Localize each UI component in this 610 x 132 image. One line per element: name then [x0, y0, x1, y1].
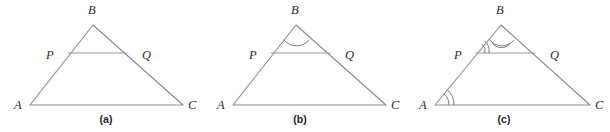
vertex-label-b: B [88, 4, 96, 17]
triangle-abc-outline [233, 25, 386, 105]
vertex-label-b: B [291, 4, 299, 17]
angle-mark-b-arc-1 [284, 40, 309, 46]
vertex-label-a: A [14, 99, 22, 112]
vertex-label-c: C [595, 99, 603, 112]
panel-caption-c: (c) [498, 114, 511, 125]
vertex-label-p: P [46, 49, 54, 62]
vertex-label-a: A [419, 99, 427, 112]
panel-a: A B C P Q (a) [0, 0, 203, 132]
vertex-label-p: P [249, 49, 257, 62]
angle-mark-b-arc-1 [490, 40, 514, 47]
vertex-label-p: P [454, 49, 462, 62]
triangle-abc-outline [30, 25, 183, 105]
vertex-label-b: B [496, 4, 504, 17]
panel-caption-a: (a) [100, 114, 113, 125]
panel-b: A B C P Q (b) [203, 0, 406, 132]
vertex-label-q: Q [550, 49, 559, 62]
panel-caption-b: (b) [293, 114, 306, 125]
angle-mark-a-arc-2 [444, 94, 449, 105]
angle-mark-p-arc-2 [482, 44, 485, 53]
triangle-abc-outline [435, 25, 590, 105]
vertex-label-q: Q [345, 49, 354, 62]
vertex-label-c: C [188, 99, 196, 112]
vertex-label-c: C [391, 99, 399, 112]
figure-root: A B C P Q (a) A B C P Q (b) [0, 0, 610, 132]
vertex-label-q: Q [142, 49, 151, 62]
panel-c: A B C P Q (c) [406, 0, 609, 132]
vertex-label-a: A [217, 99, 225, 112]
